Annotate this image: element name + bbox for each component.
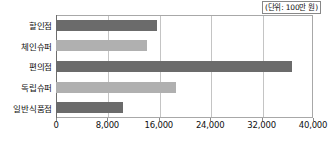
category-label-독립슈퍼: 독립슈퍼 [0, 77, 52, 98]
bar-독립슈퍼 [56, 82, 176, 93]
bar-row [56, 15, 313, 36]
bar-row [56, 36, 313, 57]
x-tick-mark [262, 118, 263, 121]
x-tick-label: 8,000 [96, 120, 119, 130]
bar-series [56, 15, 313, 118]
x-tick-label: 32,000 [247, 120, 276, 130]
x-tick-mark [56, 118, 57, 121]
bar-체인슈퍼 [56, 40, 147, 51]
x-tick-label: 0 [53, 120, 58, 130]
x-tick-mark [159, 118, 160, 121]
category-label-일반식품점: 일반식품점 [0, 97, 52, 118]
x-axis-tick-labels: 08,00016,00024,00032,00040,000 [0, 120, 328, 134]
bar-할인점 [56, 20, 157, 31]
x-tick-label: 16,000 [145, 120, 174, 130]
x-tick-mark [210, 118, 211, 121]
unit-note-label: (단위: 100만 원) [262, 1, 321, 14]
x-tick-mark [313, 118, 314, 121]
category-label-할인점: 할인점 [0, 15, 52, 36]
bar-row [56, 56, 313, 77]
bar-row [56, 77, 313, 98]
x-tick-label: 24,000 [196, 120, 225, 130]
category-label-체인슈퍼: 체인슈퍼 [0, 36, 52, 57]
bar-row [56, 97, 313, 118]
category-axis-labels: 할인점체인슈퍼편의점독립슈퍼일반식품점 [0, 15, 52, 118]
x-tick-label: 40,000 [299, 120, 328, 130]
x-tick-mark [107, 118, 108, 121]
bar-편의점 [56, 61, 292, 72]
category-label-편의점: 편의점 [0, 56, 52, 77]
bar-chart: (단위: 100만 원) 할인점체인슈퍼편의점독립슈퍼일반식품점 08,0001… [0, 0, 328, 142]
bar-일반식품점 [56, 102, 123, 113]
